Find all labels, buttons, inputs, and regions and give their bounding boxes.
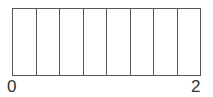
bar-segment-5 [107, 9, 131, 75]
bar-segment-8 [178, 9, 201, 75]
bar-segment-3 [60, 9, 84, 75]
bar-segment-1 [13, 9, 37, 75]
bar-segment-4 [84, 9, 108, 75]
end-label: 2 [191, 78, 200, 96]
bar-segment-6 [131, 9, 155, 75]
fraction-bar [12, 8, 201, 76]
bar-segment-2 [37, 9, 61, 75]
bar-segment-7 [154, 9, 178, 75]
start-label: 0 [7, 78, 16, 96]
